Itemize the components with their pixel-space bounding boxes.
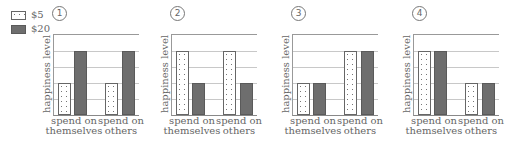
y-axis-label: happiness level	[401, 35, 412, 113]
bar-20-dollars	[482, 83, 495, 115]
x-axis-label: spend onothers	[451, 116, 511, 136]
bar-5-dollars	[465, 83, 478, 115]
bar-5-dollars	[418, 51, 431, 115]
x-label-line2: others	[451, 126, 511, 136]
panel-number: 4	[412, 6, 427, 21]
plot-area	[413, 34, 499, 116]
chart-panel-4: 4happiness levelspend onthemselvesspend …	[0, 0, 511, 149]
bar-20-dollars	[434, 51, 447, 115]
